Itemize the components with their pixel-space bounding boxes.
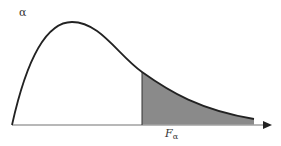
alpha-label: α [19,6,27,19]
shaded-tail-region [142,72,254,125]
f-distribution-diagram: α Fα [0,0,281,146]
density-curve [12,22,254,125]
critical-value-subscript: α [173,132,179,141]
axis-arrow-icon [263,121,272,129]
critical-value-label: Fα [164,127,179,141]
critical-value-text: F [164,127,173,140]
